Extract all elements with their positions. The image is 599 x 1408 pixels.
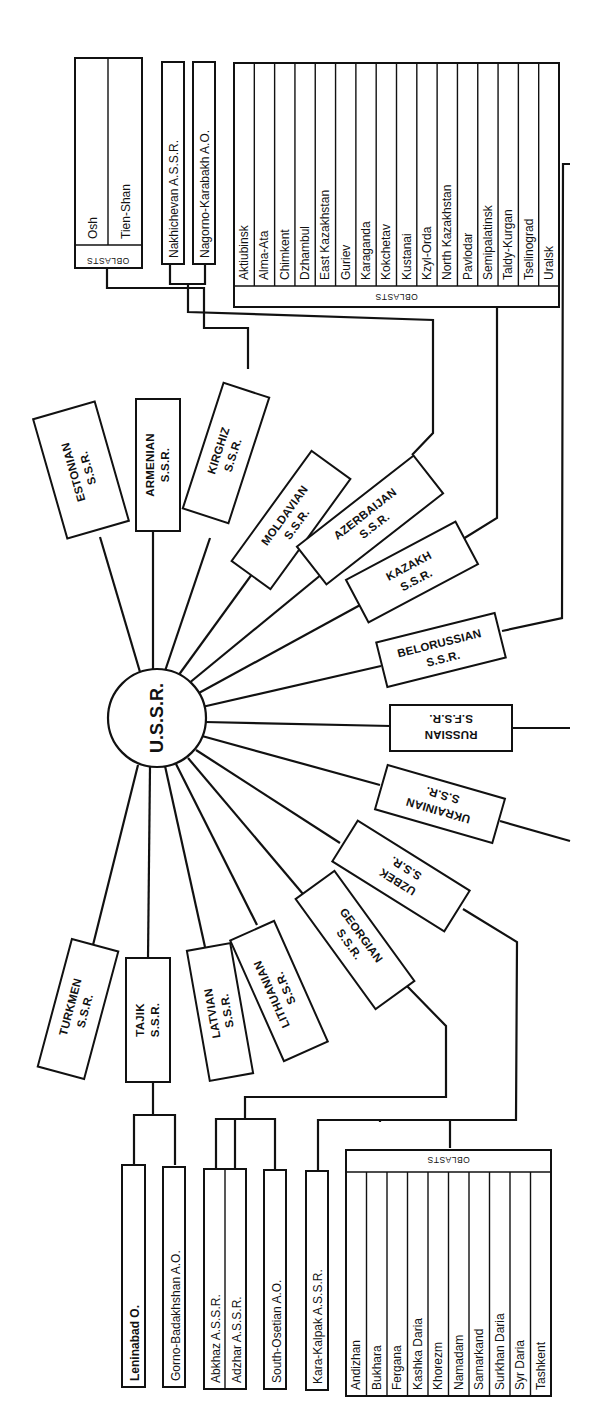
oblast-item: North Kazakhstan: [440, 185, 454, 280]
oblast-item: Andizhan: [349, 1340, 363, 1390]
oblast-item: Kashka Daria: [411, 1318, 425, 1390]
republic-type: S.S.R.: [149, 1003, 161, 1037]
oblast-item: Tashkent: [534, 1341, 548, 1390]
ussr-label: U.S.S.R.: [147, 683, 167, 753]
republic-turkmen[interactable]: TURKMEN S.S.R.: [38, 939, 119, 1079]
oblast-item: Guriev: [339, 245, 353, 280]
oblast-item: East Kazakhstan: [318, 190, 332, 280]
unit-item: South-Osetian A.O.: [270, 1280, 284, 1383]
oblast-item: Karaganda: [359, 221, 373, 280]
oblast-item: Aktiubinsk: [237, 224, 251, 280]
republic-estonian[interactable]: ESTONIAN S.S.R.: [33, 402, 129, 539]
kirghiz-oblasts-table: OBLASTS Osh Tien-Shan: [75, 58, 142, 268]
oblasts-header: OBLASTS: [87, 256, 130, 266]
oblast-item: Tien-Shan: [119, 184, 133, 239]
georgian-units: Abkhaz A.S.S.R. Adzhar A.S.S.R. South-Os…: [204, 1169, 286, 1389]
republic-name: RUSSIAN: [424, 729, 477, 741]
ussr-administrative-diagram: U.S.S.R. ESTONIAN S.S.R. ARMENIAN S.S.R.…: [0, 0, 599, 1408]
unit-item: Nakhichevan A.S.S.R.: [167, 140, 181, 258]
oblast-item: Samarkand: [472, 1329, 486, 1390]
oblasts-header: OBLASTS: [375, 292, 418, 302]
uzbek-oblasts-table: AndizhanBukharaFerganaKashka DariaKhorez…: [346, 1150, 551, 1396]
republic-tajik[interactable]: TAJIK S.S.R.: [126, 958, 170, 1082]
unit-item: Leninabad O.: [128, 1305, 142, 1381]
oblast-item: Kustanai: [400, 233, 414, 280]
oblast-item: Namadam: [452, 1335, 466, 1390]
republic-russian[interactable]: RUSSIAN S.F.S.R.: [390, 705, 512, 751]
oblast-item: Chimkent: [278, 229, 292, 280]
oblast-item: Uralsk: [542, 245, 556, 280]
oblast-item: Semipalatinsk: [481, 204, 495, 280]
oblast-item: Syr Daria: [513, 1340, 527, 1390]
oblast-item: Pavlodar: [461, 233, 475, 280]
ussr-node[interactable]: U.S.S.R.: [108, 669, 206, 767]
oblast-item: Khorezm: [431, 1342, 445, 1390]
unit-item: Adzhar A.S.S.R.: [230, 1296, 244, 1383]
oblast-item: Osh: [86, 217, 100, 239]
unit-item: Gorno-Badakhshan A.O.: [169, 1250, 183, 1381]
republic-type: S.F.S.R.: [429, 713, 473, 725]
azerbaijan-units: Nakhichevan A.S.S.R. Nagorno-Karabakh A.…: [162, 62, 215, 264]
oblast-item: Kzyl-Orda: [420, 226, 434, 280]
unit-item: Kara-Kalpak A.S.S.R.: [311, 1269, 325, 1384]
oblast-item: Alma-Ata: [257, 230, 271, 280]
tajik-units: Leninabad O. Gorno-Badakhshan A.O.: [122, 1165, 185, 1387]
republic-armenian[interactable]: ARMENIAN S.S.R.: [136, 399, 180, 531]
unit-item: Abkhaz A.S.S.R.: [209, 1294, 223, 1383]
oblast-item: Kokchetav: [379, 224, 393, 280]
republic-belorussian[interactable]: BELORUSSIAN S.S.R.: [376, 613, 506, 687]
oblast-item: Bukhara: [370, 1345, 384, 1390]
oblast-item: Tselinograd: [522, 219, 536, 280]
oblast-item: Dzhambul: [298, 226, 312, 280]
oblast-item: Taldy-Kurgan: [501, 209, 515, 280]
republic-name: TAJIK: [134, 1003, 146, 1037]
uzbek-units: Kara-Kalpak A.S.S.R.: [306, 1171, 328, 1390]
oblast-item: Fergana: [390, 1345, 404, 1390]
oblast-item: Surkhan Daria: [493, 1313, 507, 1390]
republic-name: ARMENIAN: [144, 433, 156, 497]
republic-kirghiz[interactable]: KIRGHIZ S.S.R.: [183, 383, 269, 523]
republic-ukrainian[interactable]: UKRAINIAN S.S.R.: [375, 765, 505, 843]
oblasts-header: OBLASTS: [427, 1155, 470, 1165]
kazakh-oblasts-table: AktiubinskAlma-AtaChimkentDzhambulEast K…: [234, 63, 559, 307]
republic-type: S.S.R.: [159, 448, 171, 482]
unit-item: Nagorno-Karabakh A.O.: [198, 130, 212, 258]
